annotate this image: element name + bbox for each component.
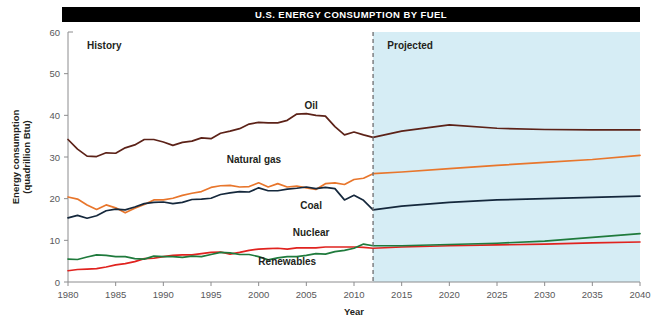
region-label-history: History xyxy=(87,40,122,51)
y-tick-label: 10 xyxy=(49,235,60,246)
x-tick-label: 2015 xyxy=(391,289,412,300)
y-tick-label: 30 xyxy=(49,152,60,163)
y-tick-label: 50 xyxy=(49,68,60,79)
x-tick-label: 2020 xyxy=(439,289,460,300)
x-tick-label: 1980 xyxy=(57,289,78,300)
series-label-oil: Oil xyxy=(304,100,318,111)
x-tick-label: 2025 xyxy=(486,289,507,300)
y-tick-label: 20 xyxy=(49,193,60,204)
chart-axis-titles: YearEnergy consumption(quadrillion Btu) xyxy=(10,110,365,317)
y-tick-label: 60 xyxy=(49,27,60,38)
x-tick-label: 2030 xyxy=(534,289,555,300)
y-tick-label: 40 xyxy=(49,110,60,121)
x-tick-label: 1985 xyxy=(105,289,126,300)
x-axis-title: Year xyxy=(344,306,364,317)
x-tick-label: 1990 xyxy=(153,289,174,300)
y-tick-label: 0 xyxy=(55,277,60,288)
series-label-nuclear: Nuclear xyxy=(293,227,330,238)
series-label-renewables: Renewables xyxy=(258,256,316,267)
x-tick-label: 1995 xyxy=(200,289,221,300)
series-label-natural-gas: Natural gas xyxy=(227,154,282,165)
series-label-coal: Coal xyxy=(300,200,322,211)
x-tick-label: 2010 xyxy=(343,289,364,300)
chart-plot-area: 0102030405060198019851990199520002005201… xyxy=(0,0,653,323)
region-label-projected: Projected xyxy=(387,40,433,51)
x-tick-label: 2040 xyxy=(629,289,650,300)
x-tick-label: 2000 xyxy=(248,289,269,300)
x-tick-label: 2035 xyxy=(582,289,603,300)
chart-figure: U.S. ENERGY CONSUMPTION BY FUEL 01020304… xyxy=(0,0,653,323)
y-axis-title: Energy consumption(quadrillion Btu) xyxy=(10,110,32,205)
x-tick-label: 2005 xyxy=(296,289,317,300)
